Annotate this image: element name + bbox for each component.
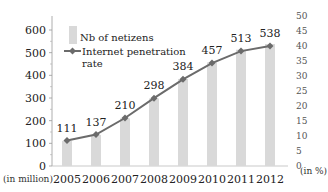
- x-tick-label: 2007: [111, 173, 139, 186]
- right-tick-label: 45: [296, 26, 308, 36]
- right-tick-label: 15: [296, 116, 308, 126]
- x-tick-label: 2006: [82, 173, 110, 186]
- right-tick-label: 40: [296, 41, 308, 51]
- chart: 0100200300400500600 (in million) 0510152…: [0, 0, 328, 192]
- x-tick-label: 2011: [227, 173, 255, 186]
- left-axis: 0100200300400500600 (in million): [3, 16, 53, 184]
- left-tick-label: 100: [25, 137, 46, 150]
- left-tick-label: 400: [25, 69, 46, 82]
- left-tick-label: 300: [25, 92, 46, 105]
- left-tick-label: 600: [25, 24, 46, 37]
- data-label: 210: [115, 99, 136, 112]
- left-tick-label: 200: [25, 115, 46, 128]
- data-label: 111: [57, 122, 78, 135]
- x-axis-labels: 20052006200720082009201020112012: [53, 173, 284, 186]
- bar: [178, 79, 188, 166]
- right-axis: 05101520253035404550 (in %): [296, 11, 327, 176]
- legend-diamond-marker: [69, 48, 76, 55]
- data-label: 384: [173, 60, 194, 73]
- right-tick-label: 30: [296, 71, 308, 81]
- legend-line-label-cont: rate: [82, 58, 103, 69]
- right-tick-label: 10: [296, 131, 308, 141]
- right-tick-label: 25: [296, 86, 308, 96]
- left-tick-label: 500: [25, 47, 46, 60]
- bar: [120, 118, 130, 166]
- right-axis-unit: (in %): [300, 166, 327, 176]
- bar: [236, 50, 246, 166]
- x-tick-label: 2009: [169, 173, 197, 186]
- x-tick-label: 2010: [198, 173, 226, 186]
- bar: [62, 141, 72, 166]
- legend-bar-swatch: [69, 26, 77, 44]
- right-tick-label: 20: [296, 101, 308, 111]
- legend-bar-label: Nb of netizens: [80, 32, 154, 43]
- x-tick-label: 2008: [140, 173, 168, 186]
- bar: [207, 62, 217, 166]
- right-tick-label: 35: [296, 56, 308, 66]
- data-labels: 111137210298384457513538: [57, 27, 281, 135]
- legend-line-label: Internet penetration: [82, 46, 186, 57]
- data-label: 457: [202, 44, 223, 57]
- bar: [265, 44, 275, 166]
- bar: [149, 98, 159, 166]
- right-tick-label: 50: [296, 11, 308, 21]
- right-tick-label: 5: [296, 146, 302, 156]
- left-tick-label: 0: [39, 160, 46, 173]
- data-label: 137: [86, 116, 107, 129]
- x-tick-label: 2012: [256, 173, 284, 186]
- legend: Nb of netizens Internet penetration rate: [64, 26, 186, 69]
- left-axis-unit: (in million): [3, 174, 53, 184]
- data-label: 298: [144, 79, 165, 92]
- x-tick-label: 2005: [53, 173, 81, 186]
- bar: [91, 135, 101, 166]
- data-label: 538: [260, 27, 281, 40]
- data-label: 513: [231, 32, 252, 45]
